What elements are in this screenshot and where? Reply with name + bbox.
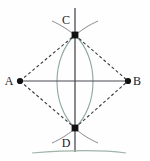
geometry-figure: A B C D bbox=[0, 0, 150, 161]
point-label-B: B bbox=[133, 74, 141, 88]
point-C-dot bbox=[72, 32, 79, 39]
point-label-C: C bbox=[62, 13, 70, 27]
point-D-dot bbox=[72, 125, 79, 132]
point-label-D: D bbox=[62, 136, 71, 150]
point-A-dot bbox=[17, 78, 23, 84]
construction-diagram: A B C D bbox=[0, 0, 150, 161]
point-label-A: A bbox=[5, 74, 14, 88]
point-B-dot bbox=[125, 78, 131, 84]
